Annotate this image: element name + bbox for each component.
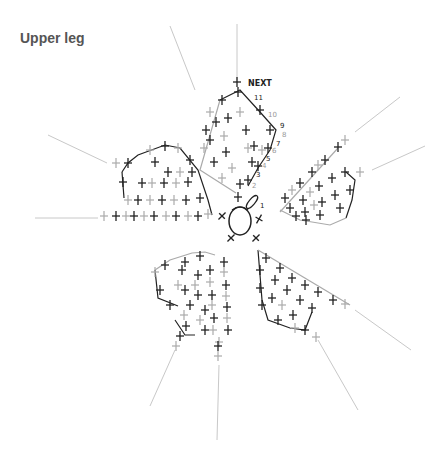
petal-top [200,77,276,193]
label-row-2: 2 [252,182,256,190]
petal-bottom-left [151,251,232,361]
magic-ring [216,192,265,244]
label-row-10: 10 [268,111,277,119]
label-row-4: 4 [262,162,267,170]
label-row-11: 11 [254,94,263,102]
label-row-3: 3 [256,171,260,179]
crochet-chart: NEXT 11 10 9 8 7 6 5 4 3 2 1 [0,0,448,457]
label-row-5: 5 [266,155,270,163]
petal-bottom-right [256,250,350,342]
label-row-6: 6 [272,147,277,155]
petal-left [100,141,212,221]
label-row-8: 8 [282,131,286,139]
guide-lines [35,24,425,440]
label-row-7: 7 [276,140,280,148]
label-row-9: 9 [280,122,284,130]
label-row-1: 1 [260,202,264,210]
label-next: NEXT [248,79,272,88]
petal-right [280,135,364,225]
